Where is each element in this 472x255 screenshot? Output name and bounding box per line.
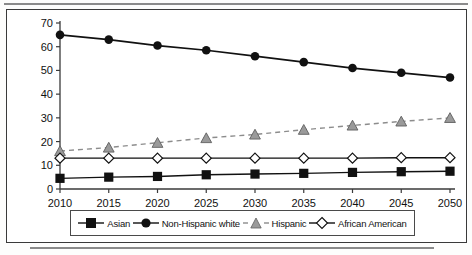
y-axis-tick-label: 40 xyxy=(41,88,53,100)
y-axis-tick-label: 70 xyxy=(41,17,53,29)
x-axis-tick-label: 2030 xyxy=(243,197,267,209)
y-axis-tick-label: 10 xyxy=(41,159,53,171)
legend-label-hispanic: Hispanic xyxy=(272,218,307,229)
chart-frame: 0102030405060702010201520202025203020352… xyxy=(6,9,467,243)
y-axis-tick-label: 50 xyxy=(41,64,53,76)
data-point-marker xyxy=(55,174,64,183)
data-point-marker xyxy=(299,153,309,163)
data-point-marker xyxy=(201,153,211,163)
data-point-marker xyxy=(104,153,114,163)
data-point-marker xyxy=(348,64,357,73)
data-point-marker xyxy=(251,52,260,61)
y-axis-tick-label: 20 xyxy=(41,136,53,148)
x-axis-tick-label: 2040 xyxy=(340,197,364,209)
figure-page: 0102030405060702010201520202025203020352… xyxy=(0,0,472,255)
open-diamond-marker-icon xyxy=(309,216,335,230)
data-point-marker xyxy=(202,170,211,179)
data-point-marker xyxy=(348,168,357,177)
data-point-marker xyxy=(397,167,406,176)
x-axis-tick-label: 2045 xyxy=(389,197,413,209)
top-horizontal-rule xyxy=(4,3,468,5)
legend-label-non-hispanic-white: Non-Hispanic white xyxy=(162,218,240,229)
data-point-marker xyxy=(153,41,162,50)
data-point-marker xyxy=(250,169,259,178)
data-point-marker xyxy=(250,153,260,163)
y-axis-tick-label: 30 xyxy=(41,112,53,124)
data-point-marker xyxy=(202,46,211,55)
legend-item-hispanic[interactable]: Hispanic xyxy=(243,216,307,230)
y-axis-tick-label: 0 xyxy=(47,183,53,195)
data-point-marker xyxy=(104,35,113,44)
legend-label-asian: Asian xyxy=(107,218,130,229)
data-point-marker xyxy=(397,69,406,78)
data-point-marker xyxy=(396,153,406,163)
data-point-marker xyxy=(153,172,162,181)
data-point-marker xyxy=(56,31,65,40)
data-point-marker xyxy=(299,169,308,178)
legend-item-non-hispanic-white[interactable]: Non-Hispanic white xyxy=(133,216,240,230)
data-point-marker xyxy=(445,153,455,163)
x-axis-tick-label: 2015 xyxy=(97,197,121,209)
data-point-marker xyxy=(299,58,308,67)
data-point-marker xyxy=(298,125,309,135)
filled-circle-marker-icon xyxy=(133,216,159,230)
bottom-horizontal-rule xyxy=(30,247,434,249)
x-axis-tick-label: 2050 xyxy=(438,197,462,209)
data-point-marker xyxy=(445,167,454,176)
legend-label-african-american: African American xyxy=(338,218,407,229)
data-point-marker xyxy=(153,153,163,163)
filled-triangle-marker-icon xyxy=(243,216,269,230)
x-axis-tick-label: 2020 xyxy=(145,197,169,209)
data-point-marker xyxy=(446,73,455,82)
x-axis-tick-label: 2035 xyxy=(292,197,316,209)
legend-item-asian[interactable]: Asian xyxy=(78,216,130,230)
data-point-marker xyxy=(201,133,212,143)
filled-square-marker-icon xyxy=(78,216,104,230)
chart-legend: Asian Non-Hispanic white Hispanic Africa… xyxy=(70,210,415,236)
legend-item-african-american[interactable]: African American xyxy=(309,216,407,230)
line-chart-plot: 0102030405060702010201520202025203020352… xyxy=(7,10,465,241)
x-axis-tick-label: 2010 xyxy=(48,197,72,209)
x-axis-tick-label: 2025 xyxy=(194,197,218,209)
data-point-marker xyxy=(348,153,358,163)
data-point-marker xyxy=(104,173,113,182)
y-axis-tick-label: 60 xyxy=(41,41,53,53)
